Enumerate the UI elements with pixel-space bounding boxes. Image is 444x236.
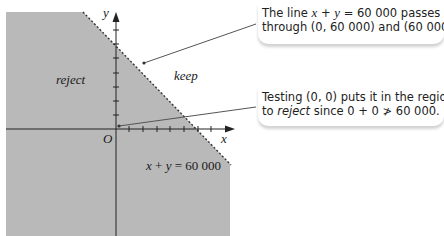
y-axis-label: y [103,5,109,21]
callout-pointer-1 [144,24,256,63]
shaded-reject-region [6,12,230,236]
callout-1-line-1: The line x + y = 60 000 passes [262,6,444,20]
keep-region-label: keep [174,68,198,84]
x-axis-label: x [221,131,227,147]
reject-region-label: reject [56,72,85,88]
callout-test-point: Testing (0, 0) puts it in the regio to r… [258,88,444,126]
callout-2-line-2: to reject since 0 + 0 ≯ 60 000. [262,104,444,118]
pointer-dot-2 [117,124,120,127]
callout-boundary-line: The line x + y = 60 000 passes through (… [258,4,444,44]
y-axis-arrow-icon [113,12,120,22]
boundary-equation-label: x + y = 60 000 [146,158,221,174]
callout-2-line-1: Testing (0, 0) puts it in the regio [262,90,444,104]
origin-label: O [103,131,112,147]
pointer-dot-1 [142,61,145,64]
callout-1-line-2: through (0, 60 000) and (60 000 [262,20,444,34]
